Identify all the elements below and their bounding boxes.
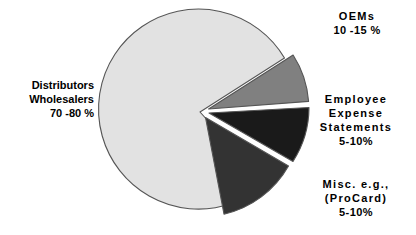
label-misc-line2: (ProCard) bbox=[298, 191, 414, 205]
pie-chart: Distributors Wholesalers 70 -80 % OEMs 1… bbox=[0, 0, 416, 235]
label-misc-line1: Misc. e.g., bbox=[298, 177, 414, 191]
label-misc-procard: Misc. e.g., (ProCard) 5-10% bbox=[298, 177, 414, 219]
label-employee-line3: Statements bbox=[296, 120, 416, 134]
label-misc-percent: 5-10% bbox=[298, 205, 414, 219]
label-oems-percent: 10 -15 % bbox=[300, 23, 414, 37]
label-employee-line1: Employee bbox=[296, 92, 416, 106]
label-employee-line2: Expense bbox=[296, 106, 416, 120]
label-employee-percent: 5-10% bbox=[296, 134, 416, 148]
label-distributors-percent: 70 -80 % bbox=[2, 106, 94, 120]
label-distributors: Distributors Wholesalers 70 -80 % bbox=[2, 78, 94, 120]
label-distributors-line1: Distributors bbox=[2, 78, 94, 92]
label-employee-expense-statements: Employee Expense Statements 5-10% bbox=[296, 92, 416, 148]
label-oems-line1: OEMs bbox=[300, 9, 414, 23]
label-oems: OEMs 10 -15 % bbox=[300, 9, 414, 37]
label-distributors-line2: Wholesalers bbox=[2, 92, 94, 106]
